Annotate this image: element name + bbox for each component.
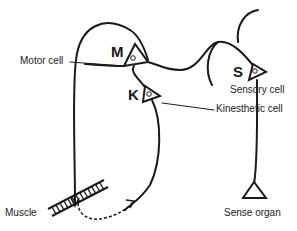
sense-organ-icon	[243, 182, 266, 198]
kinesthetic-cell-letter: K	[128, 87, 139, 102]
muscle-label: Muscle	[5, 208, 37, 218]
sensory-fiber	[254, 80, 257, 184]
kinesthetic-fiber	[125, 100, 159, 210]
sensory-cell-letter: S	[233, 64, 243, 79]
sense-organ-label: Sense organ	[224, 208, 281, 218]
sensory-cell-label: Sensory cell	[230, 85, 284, 95]
kinesthetic-cell-label: Kinesthetic cell	[216, 104, 283, 114]
sensory-nucleus-icon	[253, 69, 258, 74]
neural-circuit-diagram: M K S Motor cell Kinesthetic cell Sensor…	[0, 0, 297, 231]
motor-cell-letter: M	[111, 44, 124, 59]
motor-nucleus-icon	[131, 56, 136, 61]
motor-cell-label: Motor cell	[20, 56, 63, 66]
muscle-icon	[48, 180, 108, 216]
diagram-lines	[0, 0, 297, 231]
kinesthetic-nucleus-icon	[147, 92, 152, 97]
